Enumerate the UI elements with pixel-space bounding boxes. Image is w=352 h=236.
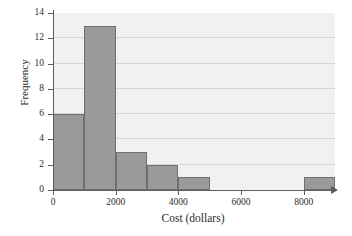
y-axis-tick-label: 6 [4, 109, 44, 119]
x-axis-title: Cost (dollars) [53, 212, 333, 224]
y-axis-tick [48, 38, 53, 39]
y-axis-tick [48, 139, 53, 140]
histogram-bar [84, 26, 115, 190]
y-axis-tick [48, 64, 53, 65]
x-axis-tick-label: 8000 [274, 197, 334, 207]
y-axis-tick [48, 89, 53, 90]
y-axis-tick-label: 8 [4, 84, 44, 94]
x-axis-line [53, 190, 333, 191]
x-axis-tick-label: 4000 [148, 197, 208, 207]
y-axis-tick [48, 13, 53, 14]
y-axis-tick-label: 12 [4, 33, 44, 43]
histogram-figure: Frequency Cost (dollars) 024681012140200… [0, 0, 352, 236]
y-axis-tick-label: 10 [4, 59, 44, 69]
y-axis-tick-label: 0 [4, 185, 44, 195]
x-axis-tick-label: 2000 [86, 197, 146, 207]
histogram-bar [147, 165, 178, 190]
y-axis-tick [48, 114, 53, 115]
y-axis-tick-label: 4 [4, 134, 44, 144]
y-axis-line [53, 10, 54, 191]
x-axis-tick [304, 190, 305, 195]
histogram-bar [178, 177, 209, 190]
x-axis-tick [53, 190, 54, 195]
y-axis-tick-label: 2 [4, 160, 44, 170]
x-axis-tick-label: 0 [23, 197, 83, 207]
histogram-bar [116, 152, 147, 190]
x-axis-tick [178, 190, 179, 195]
x-axis-tick [241, 190, 242, 195]
y-axis-tick [48, 165, 53, 166]
y-axis-tick-label: 14 [4, 8, 44, 18]
plot-area [53, 13, 335, 190]
x-axis-arrowhead [331, 186, 338, 194]
histogram-bar [53, 114, 84, 190]
x-axis-tick-label: 6000 [211, 197, 271, 207]
x-axis-tick [116, 190, 117, 195]
